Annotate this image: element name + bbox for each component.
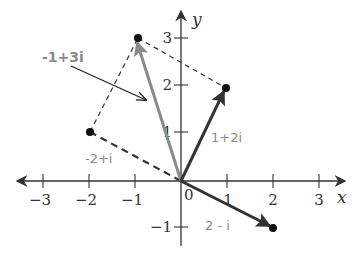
- vectors: [137, 42, 270, 226]
- complex-plane-diagram: x y −3 −2 −1 1 2 3 0 3 2 1 −1: [0, 0, 359, 257]
- dashed-edge: [138, 38, 226, 88]
- y-tick-label: −1: [150, 218, 172, 236]
- axes: x y: [18, 9, 347, 246]
- x-tick-label: −3: [29, 191, 51, 209]
- point-minus1-plus3i: [134, 34, 142, 42]
- x-tick-label: 3: [314, 191, 324, 209]
- point-1-plus2i: [222, 84, 230, 92]
- y-axis-label: y: [191, 9, 202, 29]
- x-tick-label: −1: [121, 191, 143, 209]
- annotation-arrow: [71, 66, 146, 100]
- label-minus2-plus-i: -2+i: [85, 151, 112, 166]
- y-tick-label: 3: [162, 29, 172, 47]
- point-2-minus-i: [269, 224, 277, 232]
- point-minus2-plus-i: [86, 128, 94, 136]
- label-minus1-plus3i: -1+3i: [42, 49, 84, 65]
- x-axis-label: x: [337, 187, 347, 207]
- origin-label: 0: [184, 186, 194, 204]
- y-tick-label: 2: [162, 76, 172, 94]
- x-tick-label: 2: [268, 191, 278, 209]
- y-ticks: 3 2 1 −1: [150, 29, 188, 236]
- x-tick-label: −2: [75, 191, 97, 209]
- label-2-minus-i: 2 - i: [205, 218, 230, 233]
- label-1-plus2i: 1+2i: [211, 130, 242, 145]
